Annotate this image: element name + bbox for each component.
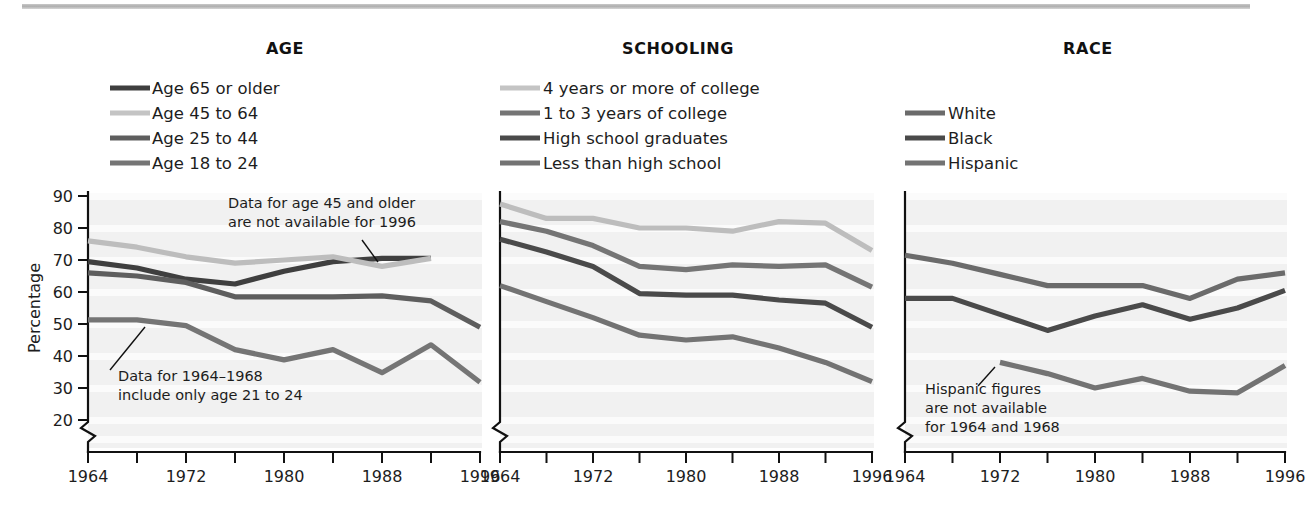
legend-label-3: Age 18 to 24 bbox=[152, 154, 258, 173]
legend-label-2: Hispanic bbox=[948, 154, 1018, 173]
x-tick-label-1988: 1988 bbox=[759, 467, 800, 486]
gridline-band-60 bbox=[905, 289, 1287, 296]
y-tick-label-30: 30 bbox=[53, 379, 73, 398]
x-tick-label-1972: 1972 bbox=[980, 467, 1021, 486]
y-tick-label-20: 20 bbox=[53, 411, 73, 430]
legend-label-2: High school graduates bbox=[543, 129, 728, 148]
y-tick-label-40: 40 bbox=[53, 347, 73, 366]
gridline-band-30 bbox=[500, 385, 874, 392]
x-tick-label-1980: 1980 bbox=[666, 467, 707, 486]
panel-age: AGEAge 65 or olderAge 45 to 64Age 25 to … bbox=[25, 39, 500, 486]
legend-label-1: Black bbox=[948, 129, 993, 148]
legend-label-0: 4 years or more of college bbox=[543, 79, 760, 98]
panel-race: RACEWhiteBlackHispanic196419721980198819… bbox=[885, 39, 1306, 486]
x-tick-label-1996: 1996 bbox=[1265, 467, 1306, 486]
annotation-1-line-1: include only age 21 to 24 bbox=[118, 387, 303, 403]
y-tick-label-60: 60 bbox=[53, 283, 73, 302]
annotation-0-line-0: Data for age 45 and older bbox=[228, 195, 415, 211]
annotation-0-line-0: Hispanic figures bbox=[925, 381, 1041, 397]
x-tick-label-1988: 1988 bbox=[362, 467, 403, 486]
legend-label-1: Age 45 to 64 bbox=[152, 104, 258, 123]
x-tick-label-1972: 1972 bbox=[166, 467, 207, 486]
gridline-band-50 bbox=[500, 321, 874, 328]
x-tick-label-1964: 1964 bbox=[68, 467, 109, 486]
y-tick-label-70: 70 bbox=[53, 251, 73, 270]
legend-label-2: Age 25 to 44 bbox=[152, 129, 258, 148]
gridline-band-80 bbox=[905, 225, 1287, 232]
legend-label-0: Age 65 or older bbox=[152, 79, 280, 98]
gridline-band-extra bbox=[500, 436, 874, 443]
annotation-0-line-1: are not available for 1996 bbox=[228, 214, 416, 230]
x-tick-label-1988: 1988 bbox=[1170, 467, 1211, 486]
panel-title-race: RACE bbox=[1063, 39, 1113, 58]
x-tick-label-1964: 1964 bbox=[885, 467, 926, 486]
gridline-band-extra bbox=[88, 436, 482, 443]
annotation-0-line-1: are not available bbox=[925, 400, 1047, 416]
x-tick-label-1980: 1980 bbox=[264, 467, 305, 486]
annotation-1-line-0: Data for 1964–1968 bbox=[118, 368, 263, 384]
y-tick-label-50: 50 bbox=[53, 315, 73, 334]
x-tick-label-1980: 1980 bbox=[1075, 467, 1116, 486]
annotation-0-line-2: for 1964 and 1968 bbox=[925, 419, 1060, 435]
y-tick-label-90: 90 bbox=[53, 187, 73, 206]
panel-title-schooling: SCHOOLING bbox=[622, 39, 734, 58]
x-tick-label-1964: 1964 bbox=[480, 467, 521, 486]
gridline-band-20 bbox=[88, 417, 482, 424]
gridline-band-90 bbox=[905, 193, 1287, 200]
legend-label-3: Less than high school bbox=[543, 154, 721, 173]
panel-schooling: SCHOOLING4 years or more of college1 to … bbox=[480, 39, 893, 486]
gridline-band-20 bbox=[500, 417, 874, 424]
y-axis-title: Percentage bbox=[25, 263, 44, 353]
legend-label-1: 1 to 3 years of college bbox=[543, 104, 727, 123]
y-tick-label-80: 80 bbox=[53, 219, 73, 238]
legend-label-0: White bbox=[948, 104, 996, 123]
figure-root: AGEAge 65 or olderAge 45 to 64Age 25 to … bbox=[0, 0, 1307, 514]
gridline-band-50 bbox=[905, 321, 1287, 328]
panel-title-age: AGE bbox=[266, 39, 304, 58]
gridline-band-extra bbox=[905, 436, 1287, 443]
gridline-band-90 bbox=[500, 193, 874, 200]
gridline-band-40 bbox=[905, 353, 1287, 360]
three-panel-line-chart: AGEAge 65 or olderAge 45 to 64Age 25 to … bbox=[0, 0, 1307, 514]
x-tick-label-1972: 1972 bbox=[573, 467, 614, 486]
